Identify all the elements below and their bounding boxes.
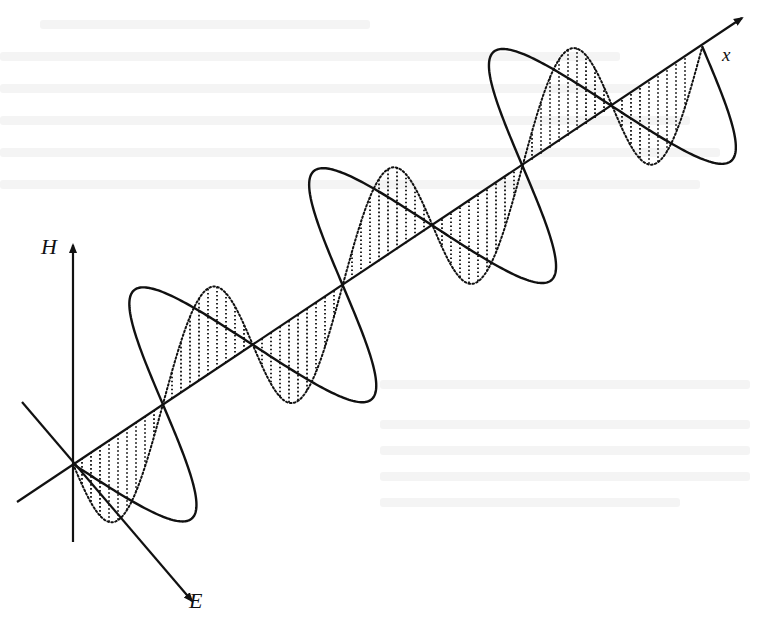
e-axis-label: E (189, 590, 202, 612)
e-axis-arrow (22, 402, 192, 601)
h-field-hatching (82, 49, 685, 522)
x-axis-label: x (722, 45, 730, 64)
h-axis-label: H (41, 236, 57, 258)
h-field-wave-dotted (73, 47, 702, 523)
x-axis-arrow (17, 18, 742, 502)
em-wave-diagram (0, 0, 759, 632)
e-field-wave-solid (73, 47, 736, 522)
